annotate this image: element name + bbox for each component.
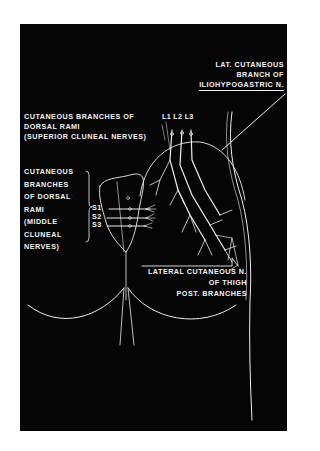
- label-line: CUTANEOUS BRANCHES OF: [24, 112, 146, 122]
- label-line: BRANCHES: [24, 179, 74, 192]
- iliohypogastric-leader: [222, 94, 285, 150]
- label-line: DORSAL RAMI: [24, 122, 146, 132]
- label-line: POST. BRANCHES: [148, 288, 247, 299]
- label-line: LAT. CUTANEOUS: [199, 60, 284, 70]
- label-line: ILIOHYPOGASTRIC N.: [199, 80, 284, 91]
- label-line: (MIDDLE: [24, 216, 74, 229]
- label-lateral-cutaneous-thigh: LATERAL CUTANEOUS N. OF THIGH POST. BRAN…: [148, 266, 247, 299]
- level-l1: L1: [162, 112, 171, 121]
- label-superior-cluneal: CUTANEOUS BRANCHES OF DORSAL RAMI (SUPER…: [24, 112, 146, 142]
- left-gluteal-fold: [28, 288, 124, 319]
- sacrum-outline: [99, 174, 143, 252]
- label-line: LATERAL CUTANEOUS N.: [148, 266, 247, 277]
- label-line: OF THIGH: [148, 277, 247, 288]
- label-line: (SUPERIOR CLUNEAL NERVES): [24, 132, 146, 142]
- level-l3: L3: [185, 112, 194, 121]
- label-line: NERVES): [24, 241, 74, 254]
- label-sacral-levels: S1 S2 S3: [92, 204, 102, 230]
- label-middle-cluneal: CUTANEOUS BRANCHES OF DORSAL RAMI (MIDDL…: [24, 166, 74, 254]
- level-l2: L2: [173, 112, 182, 121]
- label-iliohypogastric: LAT. CUTANEOUS BRANCH OF ILIOHYPOGASTRIC…: [199, 60, 284, 91]
- label-line: CLUNEAL: [24, 229, 74, 242]
- label-lumbar-levels: L1 L2 L3: [162, 112, 194, 122]
- label-line: OF DORSAL: [24, 191, 74, 204]
- label-line: RAMI: [24, 204, 74, 217]
- label-line: BRANCH OF: [199, 70, 284, 80]
- label-line: CUTANEOUS: [24, 166, 74, 179]
- level-s3: S3: [92, 221, 102, 230]
- buttock-contour: [140, 142, 245, 200]
